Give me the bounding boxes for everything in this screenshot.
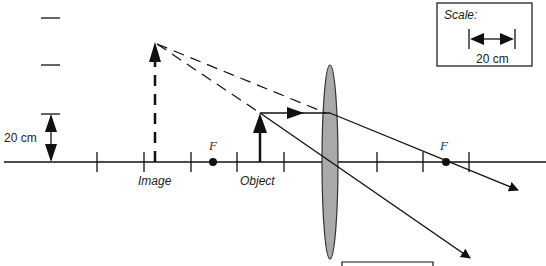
ray-parallel [260, 107, 518, 190]
image-label: Image [138, 174, 172, 188]
answer-box-partial [342, 262, 433, 266]
scale-title: Scale: [444, 8, 477, 22]
ray-central [260, 113, 470, 258]
vertical-scale-arrow [45, 114, 57, 162]
vertical-scale-ticks [41, 18, 60, 114]
scale-value: 20 cm [476, 52, 509, 66]
object-arrow [253, 113, 267, 162]
virtual-rays [157, 44, 326, 113]
vertical-scale-label: 20 cm [4, 131, 37, 145]
focal-point-left [209, 158, 217, 166]
focal-label-left: F [208, 138, 218, 153]
ray-diagram: 20 cm F F Image Object Scale: 20 c [0, 0, 546, 266]
focal-point-right [442, 158, 450, 166]
image-arrow [149, 42, 161, 162]
object-label: Object [240, 174, 275, 188]
scale-box: Scale: 20 cm [437, 3, 532, 66]
focal-label-right: F [439, 138, 449, 153]
